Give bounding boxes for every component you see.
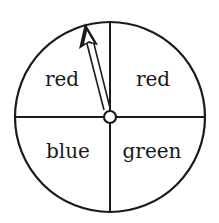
section-label-top-left: red — [45, 67, 79, 91]
spinner-diagram: red red blue green — [0, 0, 219, 223]
section-label-bottom-right: green — [123, 139, 182, 163]
center-pivot-icon — [104, 111, 116, 123]
section-label-bottom-left: blue — [46, 139, 90, 163]
section-label-top-right: red — [136, 67, 170, 91]
